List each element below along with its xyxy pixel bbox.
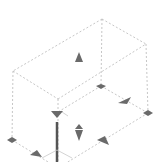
bounding-box-edges [12,19,148,162]
front-left-handle [30,150,42,157]
3d-viewport[interactable] [0,0,164,162]
top-face-handle [75,52,83,62]
height-handle-up [75,124,83,129]
front-right-handle [97,136,109,145]
right-edge-handle [118,97,131,104]
handles[interactable] [7,52,153,157]
transform-axis-gizmo[interactable] [42,112,72,162]
front-top-handle [51,111,63,118]
bounding-box-gizmo[interactable] [0,0,164,162]
height-handle-down [75,130,83,141]
